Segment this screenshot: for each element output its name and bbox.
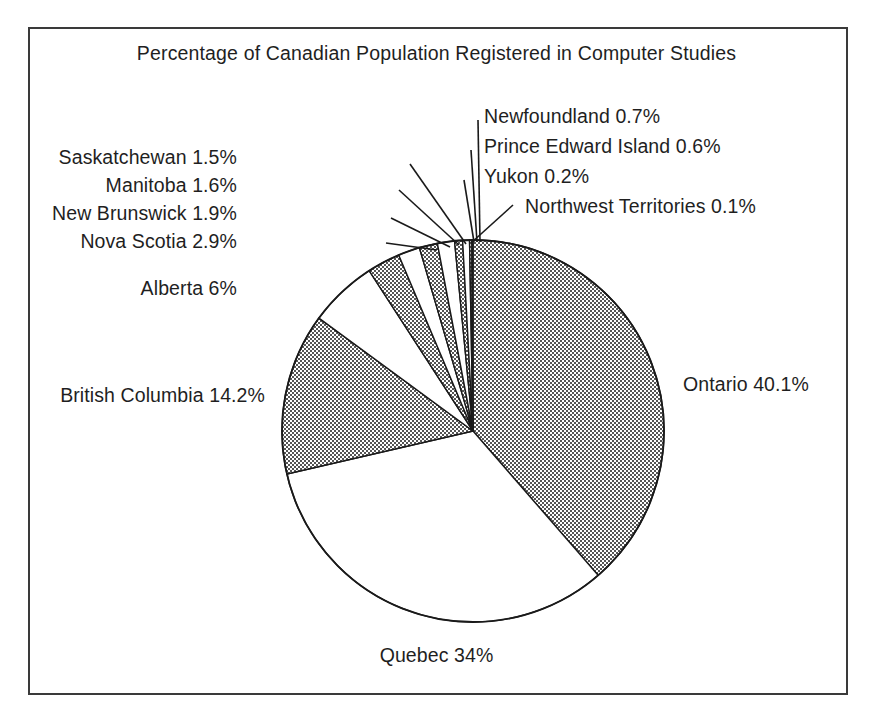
- slice-label-prince-edward-island: Prince Edward Island 0.6%: [484, 136, 721, 156]
- slice-label-northwest-territories: Northwest Territories 0.1%: [525, 196, 756, 216]
- pie-graphic: [0, 0, 873, 720]
- slice-label-alberta: Alberta 6%: [141, 278, 237, 298]
- slice-label-newfoundland: Newfoundland 0.7%: [484, 106, 660, 126]
- slice-label-manitoba: Manitoba 1.6%: [106, 175, 237, 195]
- pie-chart-figure: Percentage of Canadian Population Regist…: [0, 0, 873, 720]
- slice-label-saskatchewan: Saskatchewan 1.5%: [59, 147, 237, 167]
- slice-label-ontario: Ontario 40.1%: [683, 374, 809, 394]
- pie-slices-group: [282, 240, 664, 622]
- slice-label-british-columbia: British Columbia 14.2%: [60, 385, 265, 405]
- slice-label-nova-scotia: Nova Scotia 2.9%: [80, 231, 237, 251]
- slice-label-yukon: Yukon 0.2%: [484, 166, 589, 186]
- slice-label-quebec: Quebec 34%: [0, 645, 873, 665]
- slice-label-new-brunswick: New Brunswick 1.9%: [52, 203, 237, 223]
